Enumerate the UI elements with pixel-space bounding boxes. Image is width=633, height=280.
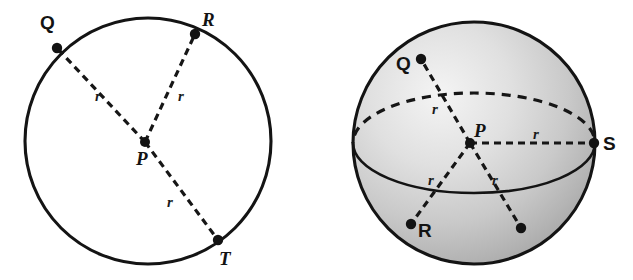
radius-segment-pq — [57, 48, 145, 142]
label-radius-pr: r — [178, 88, 184, 104]
label-radius-ps: r — [533, 126, 539, 142]
label-point-s: S — [603, 133, 616, 154]
label-point-r: R — [418, 220, 432, 241]
point-dot-t — [213, 235, 223, 245]
point-dot-s — [589, 138, 599, 148]
sphere-diagram: Q S R P r r r r — [353, 22, 616, 264]
label-radius-pq: r — [95, 88, 101, 104]
label-center-p: P — [473, 120, 486, 141]
figure-root: Q R T P r r r — [0, 0, 633, 280]
label-center-p: P — [135, 148, 148, 169]
label-radius-pr: r — [428, 172, 434, 188]
circle-diagram: Q R T P r r r — [25, 9, 271, 269]
point-dot-r — [190, 29, 200, 39]
point-dot-r — [406, 219, 416, 229]
point-dot-p-center — [140, 137, 150, 147]
label-point-r: R — [201, 9, 215, 30]
radius-segment-pt — [145, 142, 218, 240]
label-point-q: Q — [40, 12, 55, 33]
label-radius-pq: r — [432, 101, 438, 117]
label-radius-p-unlabeled: r — [492, 172, 498, 188]
radius-segment-pr — [145, 34, 195, 142]
label-point-t: T — [219, 248, 232, 269]
point-dot-q — [52, 43, 62, 53]
figure-canvas: Q R T P r r r — [0, 0, 633, 280]
label-radius-pt: r — [167, 194, 173, 210]
point-dot-q — [416, 54, 426, 64]
label-point-q: Q — [396, 53, 411, 74]
point-dot-unlabeled — [516, 223, 526, 233]
